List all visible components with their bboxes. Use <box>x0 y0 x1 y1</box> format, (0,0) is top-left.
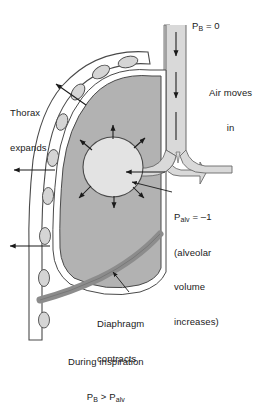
palv-line4: increases) <box>174 316 219 328</box>
palv-line1: Palv = –1 <box>174 211 219 224</box>
palv-subscript: alv <box>180 216 189 223</box>
thorax-line1: Thorax <box>10 107 47 119</box>
caption-line1: During inspiration <box>68 356 144 368</box>
figure-caption: During inspiration PB > Palv <box>68 333 144 406</box>
caption-line2: PB > Palv <box>68 391 144 404</box>
palv-line3: volume <box>174 281 219 293</box>
thorax-line2: expands <box>10 142 47 154</box>
rib <box>39 312 50 328</box>
label-barometric-pressure: PB = 0 <box>181 8 220 44</box>
caption-palv-subscript: alv <box>116 396 125 403</box>
air-moves-line1: Air moves <box>209 87 252 99</box>
air-moves-line2: in <box>209 122 252 134</box>
caption-pb-subscript: B <box>93 396 98 403</box>
rib <box>39 270 50 287</box>
palv-value: = –1 <box>190 211 212 222</box>
label-alveolar-pressure: Palv = –1 (alveolar volume increases) <box>174 188 219 350</box>
palv-line2: (alveolar <box>174 247 219 259</box>
pb-subscript: B <box>198 25 203 32</box>
label-air-moves: Air moves in <box>209 64 252 156</box>
pb-value: = 0 <box>203 20 220 31</box>
caption-operator: > <box>98 391 109 402</box>
rib <box>39 227 50 244</box>
caption-palv-symbol: P <box>109 391 115 402</box>
label-thorax-expands: Thorax expands <box>10 84 47 176</box>
diaphragm-line1: Diaphragm <box>97 318 144 330</box>
